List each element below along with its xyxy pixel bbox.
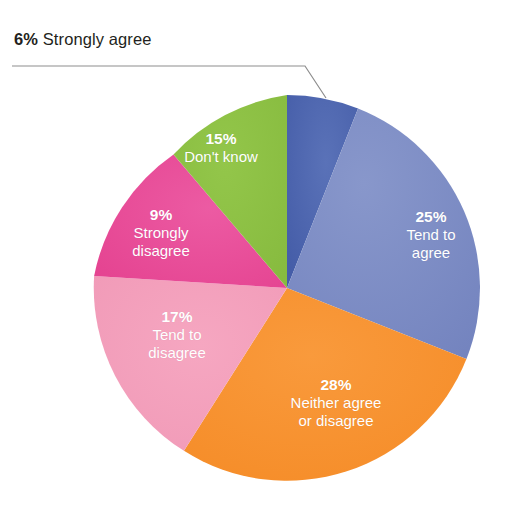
callout-leader-line xyxy=(12,66,326,98)
callout-percent: 6% xyxy=(14,30,38,48)
callout-label-strongly-agree: 6% Strongly agree xyxy=(14,30,151,49)
pie-chart-svg xyxy=(0,0,509,512)
callout-description: Strongly agree xyxy=(38,30,151,48)
pie-chart: 6% Strongly agree 25% Tend to agree 28% … xyxy=(0,0,509,512)
